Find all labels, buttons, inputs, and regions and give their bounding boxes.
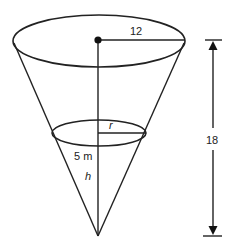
water-unit-label: 5 m	[74, 150, 92, 162]
cone-left-side	[14, 43, 98, 236]
center-dot	[94, 36, 101, 43]
arrow-down-icon	[209, 226, 218, 235]
cone-diagram: 12 r 5 m h 18	[0, 0, 234, 249]
height-label: 18	[206, 134, 218, 146]
top-radius-label: 12	[130, 25, 142, 37]
arrow-up-icon	[209, 41, 218, 50]
water-height-label: h	[85, 170, 91, 182]
